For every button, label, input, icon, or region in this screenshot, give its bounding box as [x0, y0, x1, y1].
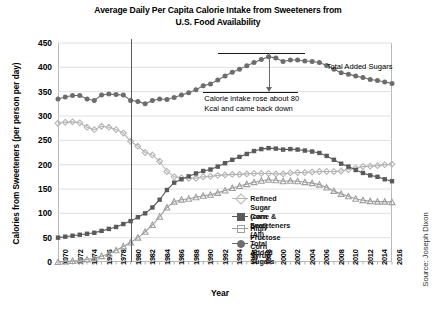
annotation-arrow-shaft [269, 53, 270, 88]
annotation-calorie-rise-line-1: Calorie intake rose about 80 [204, 94, 299, 105]
series-2 [55, 177, 395, 265]
annotation-calorie-rise-line-2: Kcal and came back down [204, 104, 299, 115]
data-series-layer [0, 0, 436, 317]
vertical-divider-1980 [131, 39, 132, 262]
legend-label-3: Total Added Sugars [248, 239, 274, 266]
legend-item-3[interactable]: Total Added Sugars [232, 239, 274, 266]
legend-marker-icon-1 [232, 212, 248, 221]
legend-marker-icon-0 [232, 194, 248, 203]
annotation-total-added-sugars: Total Added Sugars [327, 62, 393, 73]
legend-marker-icon-3 [232, 239, 248, 248]
upper-reference-bar [218, 53, 305, 55]
chart-figure: Average Daily Per Capita Calorie Intake … [0, 0, 436, 317]
series-0 [55, 119, 395, 181]
annotation-calorie-rise: Calorie intake rose about 80 Kcal and ca… [204, 94, 299, 115]
annotation-arrow-head [266, 87, 272, 92]
legend-marker-icon-2 [232, 224, 248, 233]
